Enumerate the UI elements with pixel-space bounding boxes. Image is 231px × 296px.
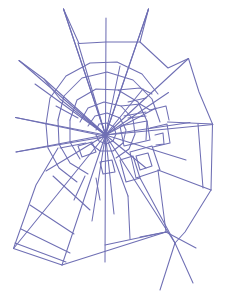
radial-s — [105, 135, 106, 262]
spider-web-canvas — [0, 0, 231, 296]
spider-web-figure — [0, 0, 231, 296]
radial-nne — [106, 18, 107, 135]
